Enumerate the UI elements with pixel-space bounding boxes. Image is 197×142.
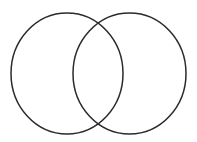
venn-diagram-canvas <box>0 0 197 142</box>
venn-diagram-figure <box>0 0 197 142</box>
diagram-background <box>0 0 197 142</box>
